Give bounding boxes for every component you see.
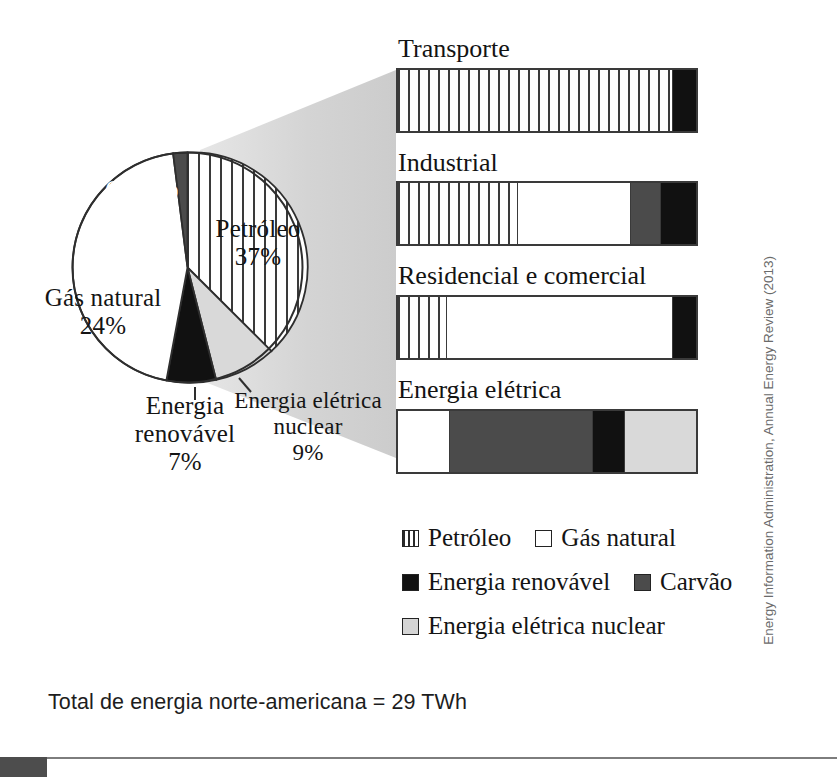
- bar-segment-carvao: [630, 183, 660, 244]
- legend-swatch-petroleo-icon: [402, 530, 419, 547]
- bar-title: Residencial e comercial: [398, 261, 706, 292]
- legend-swatch-gas-icon: [535, 530, 552, 547]
- bar-segment-renovavel: [672, 70, 696, 131]
- legend: PetróleoGás naturalEnergia renovávelCarv…: [402, 524, 732, 656]
- bar-segment-carvao: [449, 411, 592, 472]
- pie-label-nuclear-name: Energia elétrica: [222, 388, 394, 414]
- bar-segment-renovavel: [672, 297, 696, 358]
- legend-label: Energia elétrica nuclear: [428, 612, 665, 640]
- pie-label-gas-name: Gás natural: [18, 284, 188, 312]
- bar-title: Transporte: [398, 34, 706, 65]
- legend-label: Carvão: [660, 568, 732, 596]
- legend-swatch-carvao-icon: [634, 574, 651, 591]
- bar-title: Industrial: [398, 148, 706, 179]
- source-credit: Energy Information Administration, Annua…: [761, 256, 776, 645]
- figure-root: Carvão 23% Gás natural 24% Petróleo 37% …: [0, 0, 837, 777]
- legend-row: Energia renovávelCarvão: [402, 568, 732, 596]
- legend-item: Gás natural: [535, 524, 676, 552]
- pie-label-petroleo-name: Petróleo: [188, 215, 328, 243]
- bar-segment-renovavel: [660, 183, 696, 244]
- total-energy-caption: Total de energia norte-americana = 29 TW…: [48, 690, 467, 715]
- bar-block: Transporte: [396, 34, 706, 133]
- pie-label-nuclear: Energia elétrica nuclear 9%: [222, 388, 394, 465]
- stacked-bar: [396, 181, 698, 246]
- legend-item: Petróleo: [402, 524, 511, 552]
- bar-segment-petroleo: [398, 297, 446, 358]
- bar-segment-gas: [398, 411, 449, 472]
- bar-segment-petroleo: [398, 183, 517, 244]
- pie-label-petroleo: Petróleo 37%: [188, 215, 328, 271]
- legend-label: Gás natural: [561, 524, 676, 552]
- legend-item: Energia elétrica nuclear: [402, 612, 665, 640]
- pie-label-gas-pct: 24%: [18, 312, 188, 340]
- pie-label-carvao-name: Carvão: [72, 176, 212, 204]
- legend-row: Energia elétrica nuclear: [402, 612, 732, 640]
- stacked-bar: [396, 409, 698, 474]
- bar-title: Energia elétrica: [398, 375, 706, 406]
- bar-block: Industrial: [396, 148, 706, 247]
- stacked-bar: [396, 68, 698, 133]
- legend-row: PetróleoGás natural: [402, 524, 732, 552]
- bar-block: Energia elétrica: [396, 375, 706, 474]
- stacked-bar: [396, 295, 698, 360]
- bottom-tab: [0, 757, 47, 777]
- legend-swatch-renovavel-icon: [402, 574, 419, 591]
- pie-label-gas: Gás natural 24%: [18, 284, 188, 340]
- pie-label-nuclear-name2: nuclear: [222, 414, 394, 440]
- bar-segment-petroleo: [398, 70, 672, 131]
- bar-segment-renovavel: [592, 411, 625, 472]
- legend-item: Energia renovável: [402, 568, 610, 596]
- bar-block: Residencial e comercial: [396, 261, 706, 360]
- legend-swatch-nuclear-icon: [402, 618, 419, 635]
- pie-label-nuclear-pct: 9%: [222, 440, 394, 466]
- legend-item: Carvão: [634, 568, 732, 596]
- pie-label-petroleo-pct: 37%: [188, 243, 328, 271]
- legend-label: Petróleo: [428, 524, 511, 552]
- bar-segment-nuclear: [624, 411, 696, 472]
- legend-label: Energia renovável: [428, 568, 610, 596]
- stacked-bar-group: TransporteIndustrialResidencial e comerc…: [396, 34, 706, 489]
- bar-segment-gas: [517, 183, 630, 244]
- bottom-divider: [47, 757, 837, 759]
- bar-segment-gas: [446, 297, 672, 358]
